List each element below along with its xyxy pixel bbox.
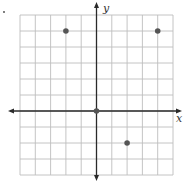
axes — [8, 2, 182, 181]
y-axis-up-arrow-icon — [94, 2, 99, 8]
data-point — [63, 28, 69, 34]
x-axis-label: x — [176, 112, 183, 125]
x-axis-left-arrow-icon — [8, 109, 14, 114]
data-point — [94, 108, 100, 114]
stray-mark — [3, 11, 5, 13]
y-axis-label: y — [102, 2, 110, 15]
y-axis-down-arrow-icon — [94, 175, 99, 181]
coordinate-plane: y x — [0, 0, 183, 182]
data-point — [124, 140, 130, 146]
data-point — [155, 28, 161, 34]
